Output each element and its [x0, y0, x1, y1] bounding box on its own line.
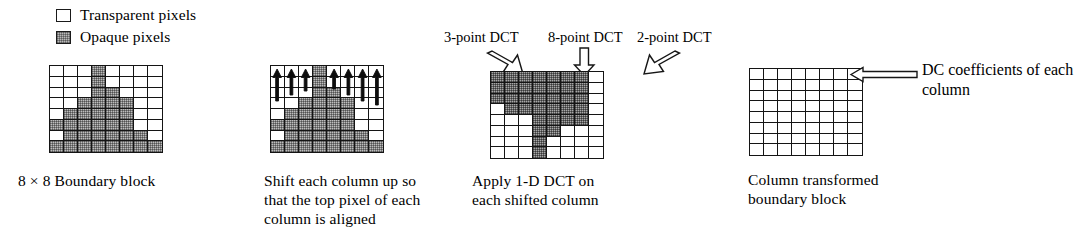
- pixel-cell: [505, 104, 519, 115]
- caption-column-transformed-block: Column transformed boundary block: [748, 170, 879, 208]
- pixel-cell: [848, 112, 862, 123]
- pixel-cell: [848, 134, 862, 145]
- pixel-cell: [764, 144, 778, 155]
- pixel-cell: [806, 134, 820, 145]
- pixel-cell: [341, 131, 355, 142]
- pixel-cell: [519, 104, 533, 115]
- pixel-cell: [505, 115, 519, 126]
- pixel-cell: [834, 134, 848, 145]
- callout-label-8-point-dct: 8-point DCT: [548, 30, 623, 45]
- pixel-cell: [285, 109, 299, 120]
- pixel-cell: [134, 77, 148, 88]
- pixel-cell: [491, 126, 505, 137]
- pixel-cell: [50, 88, 64, 99]
- pixel-cell: [750, 101, 764, 112]
- pixel-cell: [106, 120, 120, 131]
- pixel-cell: [848, 144, 862, 155]
- pixel-cell: [806, 123, 820, 134]
- pixel-cell: [792, 91, 806, 102]
- pixel-cell: [792, 144, 806, 155]
- pixel-cell: [355, 88, 369, 99]
- pixel-cell: [50, 98, 64, 109]
- pixel-cell: [764, 101, 778, 112]
- pixel-cell: [848, 69, 862, 80]
- pixel-cell: [148, 88, 162, 99]
- pixel-cell: [561, 94, 575, 105]
- pixel-cell: [148, 66, 162, 77]
- pixel-cell: [271, 88, 285, 99]
- pixel-cell: [589, 83, 603, 94]
- pixel-cell: [285, 120, 299, 131]
- pixel-cell: [750, 123, 764, 134]
- pixel-cell: [792, 101, 806, 112]
- pixel-cell: [834, 144, 848, 155]
- pixel-cell: [820, 80, 834, 91]
- pixel-cell: [78, 77, 92, 88]
- pixel-cell: [299, 88, 313, 99]
- pixel-cell: [575, 104, 589, 115]
- pixel-cell: [778, 144, 792, 155]
- pixel-cell: [106, 131, 120, 142]
- pixel-cell: [327, 66, 341, 77]
- legend-item-opaque: Opaque pixels: [56, 26, 196, 48]
- pixel-cell: [355, 98, 369, 109]
- pixel-cell: [561, 104, 575, 115]
- pixel-cell: [106, 77, 120, 88]
- pixel-cell: [120, 98, 134, 109]
- pixel-cell: [533, 83, 547, 94]
- pixel-cell: [134, 98, 148, 109]
- panel-column-transformed-block: [749, 68, 863, 156]
- pixel-cell: [92, 77, 106, 88]
- pixel-cell: [491, 83, 505, 94]
- pixel-cell: [806, 91, 820, 102]
- pixel-cell: [533, 115, 547, 126]
- pixel-cell: [341, 66, 355, 77]
- pixel-cell: [78, 141, 92, 152]
- pixel-cell: [561, 126, 575, 137]
- pixel-cell: [792, 80, 806, 91]
- pixel-cell: [750, 80, 764, 91]
- pixel-cell: [313, 98, 327, 109]
- pixel-cell: [271, 120, 285, 131]
- pixel-cell: [575, 137, 589, 148]
- pixel-cell: [299, 109, 313, 120]
- pixel-cell: [589, 94, 603, 105]
- pixel-cell: [491, 147, 505, 158]
- pixel-cell: [120, 66, 134, 77]
- pixel-cell: [519, 94, 533, 105]
- pixel-cell: [148, 98, 162, 109]
- pixel-cell: [806, 144, 820, 155]
- pixel-cell: [519, 83, 533, 94]
- pixel-cell: [834, 91, 848, 102]
- pixel-cell: [355, 131, 369, 142]
- pixel-cell: [120, 88, 134, 99]
- pixel-cell: [848, 80, 862, 91]
- pixel-cell: [369, 141, 383, 152]
- pixel-cell: [533, 147, 547, 158]
- pixel-cell: [327, 120, 341, 131]
- pixel-cell: [369, 109, 383, 120]
- pixel-cell: [106, 109, 120, 120]
- pixel-cell: [120, 77, 134, 88]
- pixel-cell: [575, 115, 589, 126]
- pixel-cell: [834, 101, 848, 112]
- pixel-cell: [341, 141, 355, 152]
- pixel-cell: [778, 101, 792, 112]
- pixel-cell: [589, 72, 603, 83]
- pixel-cell: [533, 72, 547, 83]
- pixel-cell: [750, 69, 764, 80]
- pixel-cell: [834, 112, 848, 123]
- pixel-cell: [64, 120, 78, 131]
- pixel-cell: [355, 77, 369, 88]
- pixel-cell: [820, 123, 834, 134]
- pixel-cell: [271, 66, 285, 77]
- pixel-cell: [519, 115, 533, 126]
- pixel-cell: [355, 109, 369, 120]
- pixel-cell: [561, 147, 575, 158]
- pixel-cell: [764, 134, 778, 145]
- pixel-grid-dct-block: [490, 71, 604, 159]
- pixel-cell: [313, 66, 327, 77]
- pixel-cell: [792, 134, 806, 145]
- pixel-cell: [299, 141, 313, 152]
- pixel-cell: [848, 101, 862, 112]
